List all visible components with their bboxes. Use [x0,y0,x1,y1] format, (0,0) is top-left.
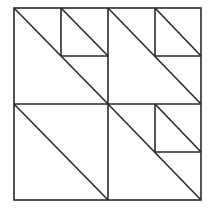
diagonal [14,104,108,200]
quadrant-bottom-left [14,104,108,200]
quadrant-top-left [14,8,108,104]
quilt-block-diagram [0,0,216,208]
sub-square-diagonal [155,104,201,152]
sub-square-diagonal [61,8,108,56]
quadrant-bottom-right [108,104,201,200]
sub-square-diagonal [155,8,201,56]
quadrant-top-right [108,8,201,104]
